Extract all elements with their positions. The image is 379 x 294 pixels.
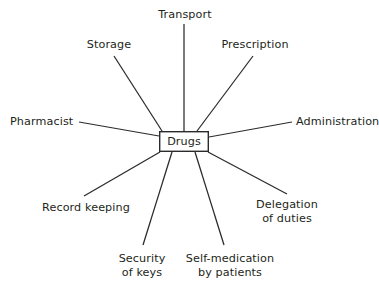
spoke-line-prescription bbox=[197, 56, 253, 131]
node-label-line: Record keeping bbox=[40, 201, 132, 215]
node-label-line: Pharmacist bbox=[10, 115, 76, 129]
node-label-self-medication-by-patients: Self-medicationby patients bbox=[182, 252, 278, 279]
spoke-line-delegation-of-duties bbox=[208, 152, 287, 194]
spider-diagram-drugs: Drugs TransportStoragePrescriptionPharma… bbox=[0, 0, 379, 294]
node-label-line: Delegation bbox=[249, 198, 325, 212]
node-label-line: Self-medication bbox=[182, 252, 278, 266]
node-label-prescription: Prescription bbox=[219, 38, 291, 52]
spoke-line-security-of-keys bbox=[143, 152, 172, 245]
spoke-line-administration bbox=[209, 122, 292, 137]
spoke-line-record-keeping bbox=[84, 152, 160, 196]
spoke-line-self-medication-by-patients bbox=[195, 152, 224, 245]
node-label-record-keeping: Record keeping bbox=[40, 201, 132, 215]
spoke-line-pharmacist bbox=[79, 122, 159, 136]
center-node-box bbox=[160, 132, 209, 152]
node-label-line: by patients bbox=[182, 266, 278, 280]
node-label-line: Storage bbox=[83, 38, 135, 52]
node-label-line: of duties bbox=[249, 212, 325, 226]
node-label-line: Transport bbox=[155, 8, 215, 22]
node-label-storage: Storage bbox=[83, 38, 135, 52]
diagram-canvas bbox=[0, 0, 379, 294]
node-label-line: Security bbox=[113, 252, 171, 266]
node-label-pharmacist: Pharmacist bbox=[10, 115, 76, 129]
node-label-security-of-keys: Securityof keys bbox=[113, 252, 171, 279]
node-label-line: Administration bbox=[296, 115, 379, 129]
node-label-line: Prescription bbox=[219, 38, 291, 52]
node-label-administration: Administration bbox=[296, 115, 379, 129]
spoke-line-storage bbox=[114, 56, 162, 131]
node-label-line: of keys bbox=[113, 266, 171, 280]
node-label-delegation-of-duties: Delegationof duties bbox=[249, 198, 325, 225]
node-label-transport: Transport bbox=[155, 8, 215, 22]
